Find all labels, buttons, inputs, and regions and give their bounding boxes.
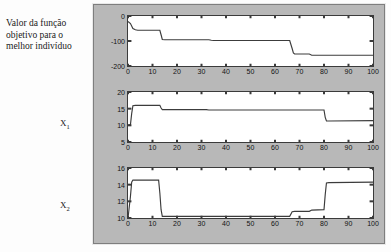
x-tick-label: 80 xyxy=(320,220,328,227)
x-tick-label: 80 xyxy=(320,144,328,151)
x-tick-label: 20 xyxy=(173,68,181,75)
x-tick-label: 70 xyxy=(296,220,304,227)
figure-panel: 0-100-2000102030405060708090100 51015200… xyxy=(93,4,385,244)
x-tick-label: 100 xyxy=(367,68,379,75)
x-tick-label: 100 xyxy=(367,144,379,151)
x-tick-label: 100 xyxy=(367,220,379,227)
x-tick-label: 30 xyxy=(198,144,206,151)
y-tick-label: -200 xyxy=(111,63,125,70)
x-tick-label: 50 xyxy=(247,68,255,75)
x-tick-label: 90 xyxy=(345,144,353,151)
axis-label-x2: X2 xyxy=(60,200,70,212)
x-tick-label: 20 xyxy=(173,220,181,227)
x-tick-label: 50 xyxy=(247,220,255,227)
plot-area-x2 xyxy=(128,168,373,218)
y-tick-label: 10 xyxy=(117,215,125,222)
y-tick-label: -100 xyxy=(111,38,125,45)
axis-label-x1-subscript: 1 xyxy=(67,123,70,130)
subplot-objective-function: 0-100-2000102030405060708090100 xyxy=(94,9,386,87)
figure-page: Valor da função objetivo para o melhor i… xyxy=(0,0,391,252)
x-tick-label: 90 xyxy=(345,220,353,227)
axis-label-x2-subscript: 2 xyxy=(67,205,70,212)
y-tick-label: 10 xyxy=(117,122,125,129)
x-tick-label: 10 xyxy=(149,144,157,151)
x-tick-label: 40 xyxy=(222,68,230,75)
x-tick-label: 60 xyxy=(271,220,279,227)
x-tick-label: 60 xyxy=(271,144,279,151)
plot-area-objective-function xyxy=(128,16,373,66)
y-tick-label: 5 xyxy=(121,139,125,146)
subplot-x2: 101214160102030405060708090100 xyxy=(94,161,386,241)
series-line xyxy=(128,180,373,218)
objective-function-caption: Valor da função objetivo para o melhor i… xyxy=(6,18,92,53)
x-tick-label: 20 xyxy=(173,144,181,151)
x-tick-label: 0 xyxy=(126,144,130,151)
x-tick-label: 80 xyxy=(320,68,328,75)
y-tick-label: 12 xyxy=(117,198,125,205)
y-tick-label: 14 xyxy=(117,181,125,188)
x-tick-label: 0 xyxy=(126,68,130,75)
x-tick-label: 70 xyxy=(296,68,304,75)
axis-label-x1: X1 xyxy=(60,118,70,130)
y-tick-label: 15 xyxy=(117,105,125,112)
y-tick-label: 0 xyxy=(121,13,125,20)
x-tick-label: 50 xyxy=(247,144,255,151)
x-tick-label: 90 xyxy=(345,68,353,75)
series-line xyxy=(128,22,373,56)
x-tick-label: 70 xyxy=(296,144,304,151)
x-tick-label: 30 xyxy=(198,68,206,75)
x-tick-label: 30 xyxy=(198,220,206,227)
x-tick-label: 10 xyxy=(149,68,157,75)
x-tick-label: 40 xyxy=(222,220,230,227)
y-tick-label: 20 xyxy=(117,89,125,96)
x-tick-label: 10 xyxy=(149,220,157,227)
subplot-x1: 51015200102030405060708090100 xyxy=(94,85,386,163)
x-tick-label: 40 xyxy=(222,144,230,151)
axes-x2: 101214160102030405060708090100 xyxy=(127,167,374,219)
y-tick-label: 16 xyxy=(117,165,125,172)
plot-area-x1 xyxy=(128,92,373,142)
axes-x1: 51015200102030405060708090100 xyxy=(127,91,374,143)
x-tick-label: 0 xyxy=(126,220,130,227)
series-line xyxy=(128,105,373,125)
x-tick-label: 60 xyxy=(271,68,279,75)
axes-objective-function: 0-100-2000102030405060708090100 xyxy=(127,15,374,67)
